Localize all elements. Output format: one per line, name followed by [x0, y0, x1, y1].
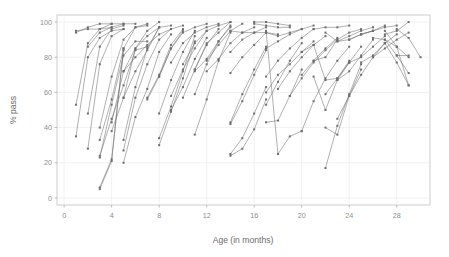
data-point-marker	[194, 58, 196, 60]
data-point-marker	[360, 54, 362, 56]
data-point-marker	[265, 98, 267, 100]
data-point-marker	[253, 74, 255, 76]
data-point-marker	[277, 74, 279, 76]
data-point-marker	[146, 40, 148, 42]
data-point-marker	[87, 113, 89, 115]
data-point-marker	[360, 63, 362, 65]
y-tick-label: 60	[44, 88, 52, 97]
data-point-marker	[206, 37, 208, 39]
data-point-marker	[277, 81, 279, 83]
data-point-marker	[408, 56, 410, 58]
data-point-marker	[206, 98, 208, 100]
data-point-marker	[360, 62, 362, 64]
data-point-marker	[253, 21, 255, 23]
data-point-marker	[170, 109, 172, 111]
data-point-marker	[134, 26, 136, 28]
data-point-marker	[265, 46, 267, 48]
data-point-marker	[134, 23, 136, 25]
data-point-marker	[313, 44, 315, 46]
data-point-marker	[206, 60, 208, 62]
data-point-marker	[194, 42, 196, 44]
data-point-marker	[265, 26, 267, 28]
data-point-marker	[218, 28, 220, 30]
data-point-marker	[324, 32, 326, 34]
data-point-marker	[170, 111, 172, 113]
data-point-marker	[324, 49, 326, 51]
data-point-marker	[170, 105, 172, 107]
data-point-marker	[111, 121, 113, 123]
data-point-marker	[146, 35, 148, 37]
data-point-marker	[146, 44, 148, 46]
data-point-marker	[289, 70, 291, 72]
data-point-marker	[313, 62, 315, 64]
data-point-marker	[301, 74, 303, 76]
data-point-marker	[194, 70, 196, 72]
data-point-marker	[99, 32, 101, 34]
data-point-marker	[313, 76, 315, 78]
data-point-marker	[134, 56, 136, 58]
data-point-marker	[301, 77, 303, 79]
data-point-marker	[372, 56, 374, 58]
data-point-marker	[336, 37, 338, 39]
data-point-marker	[265, 30, 267, 32]
data-point-marker	[146, 63, 148, 65]
data-point-marker	[229, 121, 231, 123]
y-tick-label: 40	[44, 123, 52, 132]
data-point-marker	[313, 40, 315, 42]
data-point-marker	[313, 25, 315, 27]
data-point-marker	[396, 54, 398, 56]
data-point-marker	[289, 33, 291, 35]
data-point-marker	[182, 69, 184, 71]
data-point-marker	[241, 23, 243, 25]
data-point-marker	[229, 153, 231, 155]
data-point-marker	[313, 28, 315, 30]
data-point-marker	[253, 23, 255, 25]
data-point-marker	[289, 26, 291, 28]
data-point-marker	[123, 70, 125, 72]
data-point-marker	[360, 74, 362, 76]
data-point-marker	[75, 30, 77, 32]
data-point-marker	[123, 162, 125, 164]
data-point-marker	[301, 42, 303, 44]
data-point-marker	[396, 30, 398, 32]
data-point-marker	[289, 32, 291, 34]
data-point-marker	[206, 26, 208, 28]
data-point-marker	[384, 35, 386, 37]
y-tick-label: 0	[48, 194, 52, 203]
data-point-marker	[372, 39, 374, 41]
data-point-marker	[336, 40, 338, 42]
data-point-marker	[360, 30, 362, 32]
data-point-marker	[241, 32, 243, 34]
data-point-marker	[301, 51, 303, 53]
data-point-marker	[336, 79, 338, 81]
data-point-marker	[348, 32, 350, 34]
data-point-marker	[99, 28, 101, 30]
data-point-marker	[336, 60, 338, 62]
data-point-marker	[158, 26, 160, 28]
data-point-marker	[396, 62, 398, 64]
data-point-marker	[360, 46, 362, 48]
data-point-marker	[241, 148, 243, 150]
data-point-marker	[348, 46, 350, 48]
data-point-marker	[229, 21, 231, 23]
data-point-marker	[99, 46, 101, 48]
data-point-marker	[99, 63, 101, 65]
data-point-marker	[206, 70, 208, 72]
data-point-marker	[206, 23, 208, 25]
data-point-marker	[134, 40, 136, 42]
data-point-marker	[265, 104, 267, 106]
data-point-marker	[123, 39, 125, 41]
data-point-marker	[396, 28, 398, 30]
data-point-marker	[182, 77, 184, 79]
data-point-marker	[75, 32, 77, 34]
data-point-marker	[229, 42, 231, 44]
data-point-marker	[336, 77, 338, 79]
data-point-marker	[420, 56, 422, 58]
data-point-marker	[265, 21, 267, 23]
data-point-marker	[123, 149, 125, 151]
data-point-marker	[194, 30, 196, 32]
x-tick-label: 20	[298, 211, 306, 220]
data-point-marker	[99, 188, 101, 190]
data-point-marker	[360, 69, 362, 71]
data-point-marker	[348, 62, 350, 64]
